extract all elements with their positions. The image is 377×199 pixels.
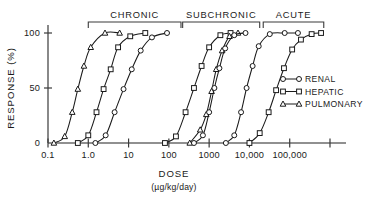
data-point-square [247,141,252,146]
data-point-circle [129,67,134,72]
x-tick-label: 1000 [199,150,220,160]
x-tick-label: 10,000 [235,150,264,160]
data-point-square [319,31,324,36]
data-point-circle [232,133,237,138]
x-axis-units: (µg/kg/day) [151,182,196,192]
data-point-circle [207,110,212,115]
data-point-circle [103,133,108,138]
group-label: CHRONIC [110,10,159,20]
data-point-square [75,141,80,146]
data-point-circle [200,133,205,138]
data-point-circle [165,31,170,36]
group-label: SUBCHRONIC [186,10,257,20]
data-point-triangle [62,133,68,138]
series-line [226,33,298,143]
data-point-triangle [69,109,75,114]
data-point-circle [267,32,272,37]
data-point-circle [121,87,126,92]
data-point-circle [149,35,154,40]
y-axis-title: RESPONSE (%) [5,47,16,129]
series-pulmonary-chronic [51,30,122,145]
group-bracket [88,22,181,28]
data-point-circle [281,77,286,82]
data-point-circle [217,66,222,71]
data-point-square [299,37,304,42]
data-point-square [94,110,99,115]
data-point-circle [93,141,98,146]
data-point-circle [243,31,248,36]
data-point-circle [112,110,117,115]
data-point-circle [244,86,249,91]
legend-label: RENAL [305,74,336,84]
group-bracket [183,22,260,28]
data-point-square [266,110,271,115]
data-point-square [108,67,113,72]
x-tick-label: 100,000 [272,150,307,160]
y-tick-label: 50 [29,83,40,93]
y-tick-label: 100 [24,28,40,38]
y-tick-label: 0 [35,138,40,148]
data-point-triangle [51,140,57,145]
data-point-circle [212,86,217,91]
curves [51,30,323,146]
x-tick-label: 100 [161,150,177,160]
legend: RENALHEPATICPULMONARY [280,74,363,109]
data-point-square [86,133,91,138]
chart-figure: 0501000.11.010100100010,000100,000DOSE(µ… [0,0,377,199]
data-point-square [143,31,148,36]
data-point-triangle [296,101,302,106]
data-point-square [183,110,188,115]
data-point-circle [295,31,300,36]
group-label: ACUTE [276,10,312,20]
data-point-square [309,32,314,37]
data-point-square [116,45,121,50]
data-point-square [174,134,179,139]
x-tick-label: 10 [123,150,134,160]
data-point-square [207,45,212,50]
data-point-circle [297,77,302,82]
data-point-square [199,64,204,69]
data-point-square [281,89,286,94]
data-point-square [257,131,262,136]
data-point-circle [138,48,143,53]
data-point-circle [191,141,196,146]
data-point-square [218,33,223,38]
data-point-triangle [102,30,108,35]
legend-label: PULMONARY [305,99,363,109]
x-axis-title: DOSE [159,168,190,179]
data-point-triangle [280,101,286,106]
data-point-square [290,47,295,52]
legend-label: HEPATIC [305,87,344,97]
data-point-circle [223,141,228,146]
data-point-square [163,141,168,146]
x-tick-label: 1.0 [82,150,95,160]
data-point-square [297,89,302,94]
data-point-square [192,86,197,91]
dose-response-chart: 0501000.11.010100100010,000100,000DOSE(µ… [0,0,377,199]
exposure-group-brackets: CHRONICSUBCHRONICACUTE [88,10,323,28]
series-hepatic-chronic [75,31,147,146]
data-point-circle [232,33,237,38]
data-point-square [128,34,133,39]
data-point-square [101,87,106,92]
data-point-triangle [81,63,87,68]
group-bracket [263,22,324,28]
x-tick-label: 0.1 [41,150,54,160]
data-point-triangle [117,30,123,35]
data-point-circle [250,64,255,69]
data-point-circle [223,46,228,51]
data-point-circle [239,110,244,115]
data-point-circle [282,31,287,36]
data-point-triangle [197,127,203,132]
data-point-circle [256,44,261,49]
data-point-square [282,66,287,71]
data-point-square [274,88,279,93]
data-point-triangle [75,86,81,91]
